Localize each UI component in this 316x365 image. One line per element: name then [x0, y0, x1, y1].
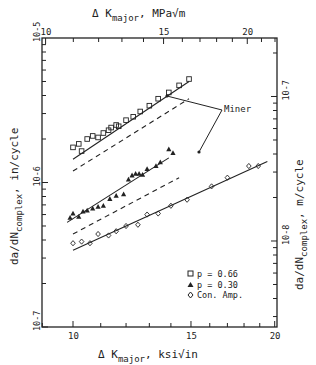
crack-growth-chart: 10152010152010-510-610-710-710-8 Miner p…	[0, 0, 316, 365]
top-axis-title: Δ Kmajor, MPa√m	[92, 7, 186, 23]
svg-text:20: 20	[242, 27, 253, 37]
svg-text:10-7: 10-7	[281, 80, 291, 100]
legend: p = 0.66 p = 0.30 Con. Amp.	[188, 269, 244, 300]
legend-label-p030: p = 0.30	[197, 280, 238, 290]
svg-text:15: 15	[186, 331, 197, 341]
axis-titles: Δ Kmajor, MPa√m Δ Kmajor, ksi√in da/dNco…	[8, 7, 309, 364]
legend-label-con-amp: Con. Amp.	[197, 290, 243, 300]
axis-ticks	[42, 38, 277, 327]
miner-label: Miner	[224, 104, 252, 114]
plot-frame	[42, 38, 277, 327]
bottom-axis-title: Δ Kmajor, ksi√in	[98, 348, 198, 364]
right-axis-title: da/dNcomplex, m/cycle	[293, 159, 309, 290]
svg-text:10: 10	[68, 331, 79, 341]
svg-text:10-8: 10-8	[281, 225, 291, 245]
legend-label-p066: p = 0.66	[197, 269, 238, 279]
legend-triangle-marker	[188, 282, 194, 287]
svg-text:10-7: 10-7	[32, 311, 42, 331]
tick-labels: 10152010152010-510-610-710-710-8	[32, 22, 291, 341]
svg-text:20: 20	[270, 331, 281, 341]
svg-text:10-6: 10-6	[32, 166, 42, 186]
legend-square-marker	[188, 271, 193, 276]
miner-annotation: Miner	[165, 94, 251, 153]
legend-diamond-marker	[188, 292, 193, 298]
svg-text:15: 15	[159, 27, 170, 37]
left-axis-title: da/dNcomplex, in/cycle	[8, 128, 24, 265]
svg-text:10-5: 10-5	[32, 22, 42, 42]
svg-text:10: 10	[41, 27, 52, 37]
